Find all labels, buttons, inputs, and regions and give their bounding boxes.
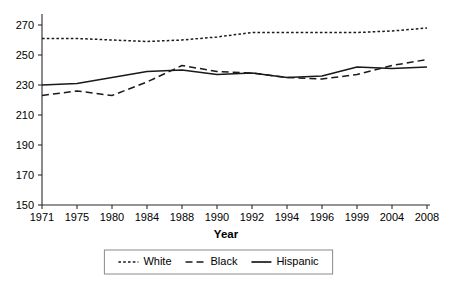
plot-area [42,28,427,96]
y-tick-label: 270 [16,19,34,31]
x-axis-title: Year [214,228,239,240]
y-axis: 150170190210230250270 [16,14,42,211]
y-tick-label: 190 [16,139,34,151]
x-axis-ticks: 1971197519801984198819901992199419961999… [30,205,439,223]
x-tick-label: 2004 [380,211,404,223]
y-tick-label: 230 [16,79,34,91]
y-tick-label: 170 [16,169,34,181]
x-tick-label: 1988 [170,211,194,223]
legend-label-black: Black [211,255,238,267]
y-tick-label: 250 [16,49,34,61]
y-tick-label: 150 [16,199,34,211]
x-tick-label: 1994 [275,211,299,223]
series-line-white [42,28,427,42]
x-tick-label: 1971 [30,211,54,223]
legend-label-hispanic: Hispanic [276,255,319,267]
x-tick-label: 1992 [240,211,264,223]
x-tick-label: 2008 [415,211,439,223]
chart-figure: 150170190210230250270 197119751980198419… [0,0,453,289]
x-axis: 1971197519801984198819901992199419961999… [30,205,439,223]
chart-legend: WhiteBlackHispanic [104,250,332,274]
x-tick-label: 1980 [100,211,124,223]
x-tick-label: 1996 [310,211,334,223]
y-axis-ticks: 150170190210230250270 [16,19,42,211]
x-tick-label: 1975 [65,211,89,223]
legend-entries: WhiteBlackHispanic [118,255,319,267]
series-line-hispanic [42,67,427,85]
series-line-black [42,60,427,96]
legend-label-white: White [143,255,171,267]
chart-canvas: 150170190210230250270 197119751980198419… [0,0,453,289]
x-tick-label: 1990 [205,211,229,223]
x-tick-label: 1984 [135,211,159,223]
x-tick-label: 1999 [345,211,369,223]
y-tick-label: 210 [16,109,34,121]
